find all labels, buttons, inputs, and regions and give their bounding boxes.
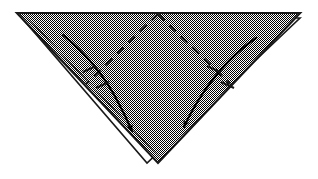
- origami-diagram-figure: Origami fold step diagram Downward-point…: [0, 0, 318, 179]
- origami-diagram-canvas: [0, 0, 318, 179]
